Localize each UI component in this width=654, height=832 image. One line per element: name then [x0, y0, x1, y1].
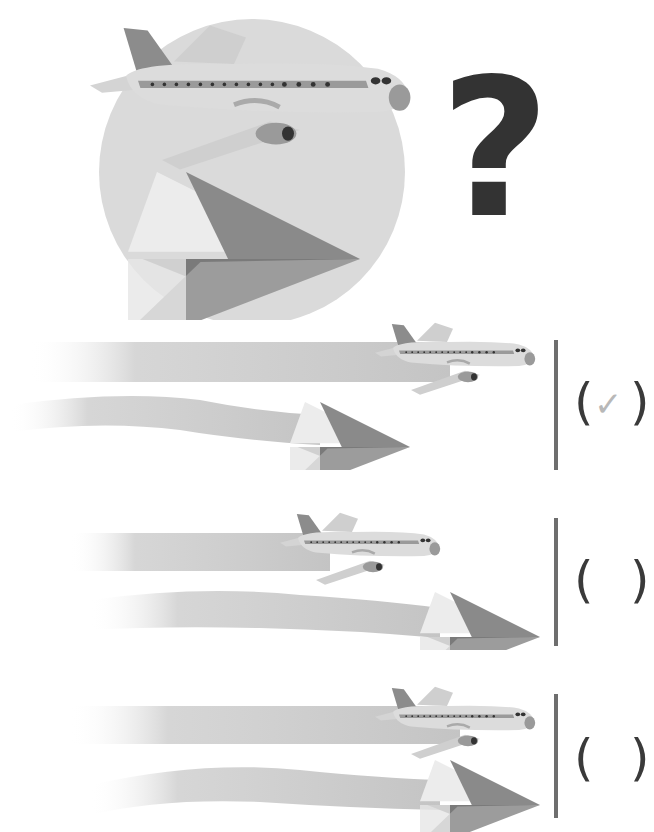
close-paren: ): [630, 372, 650, 432]
option-a-divider: [554, 340, 558, 470]
option-a-image: [0, 320, 560, 470]
option-b-divider: [554, 518, 558, 646]
airliner-paper-plane-circle-image: [80, 0, 440, 320]
option-c-answer-box[interactable]: ( ): [574, 728, 654, 788]
open-paren: (: [574, 728, 594, 788]
close-paren: ): [630, 728, 650, 788]
open-paren: (: [574, 372, 594, 432]
option-b-answer-box[interactable]: ( ): [574, 550, 654, 610]
question-mark-icon: ?: [440, 70, 530, 230]
option-c: ( ): [0, 680, 654, 832]
close-paren: ): [630, 550, 650, 610]
question-illustration: [80, 0, 440, 320]
check-mark-icon: ✓: [594, 374, 623, 434]
open-paren: (: [574, 550, 594, 610]
option-b-image: [0, 500, 560, 650]
option-a-answer-box[interactable]: ( ✓ ): [574, 372, 654, 432]
option-b: ( ): [0, 500, 654, 650]
option-a: ( ✓ ): [0, 320, 654, 470]
option-c-image: [0, 680, 560, 832]
option-c-divider: [554, 694, 558, 818]
